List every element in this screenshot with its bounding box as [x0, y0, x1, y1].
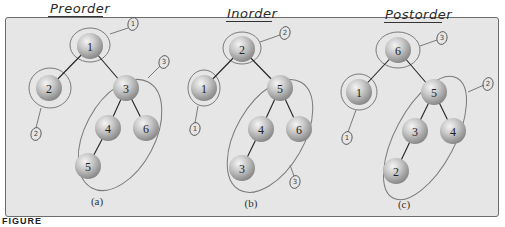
figure-label: FIGURE — [2, 216, 42, 226]
tree-node-c-4: 4 — [440, 118, 466, 144]
tree-node-a-2: 2 — [36, 75, 62, 101]
tree-node-b-5: 5 — [267, 75, 293, 101]
tree-node-a-5: 5 — [75, 153, 101, 179]
svg-text:3: 3 — [293, 178, 297, 186]
annotation-marker: 1 — [340, 130, 353, 145]
svg-text:3: 3 — [440, 34, 444, 42]
annotation-marker: 3 — [288, 174, 301, 189]
tree-node-b-2: 2 — [229, 36, 255, 62]
annotation-marker: 1 — [188, 121, 201, 136]
annotation-marker: 1 — [126, 16, 139, 31]
node-label: 3 — [123, 82, 129, 96]
tree-node-b-4: 4 — [248, 116, 274, 142]
node-label: 1 — [356, 86, 362, 100]
caption-b: (b) — [245, 197, 258, 210]
node-label: 2 — [46, 82, 52, 96]
node-label: 1 — [201, 82, 207, 96]
node-label: 3 — [239, 162, 245, 176]
tree-node-b-3: 3 — [229, 155, 255, 181]
annotation-marker: 2 — [481, 76, 494, 91]
node-label: 5 — [277, 82, 283, 96]
svg-text:1: 1 — [131, 20, 135, 28]
node-label: 2 — [239, 43, 245, 57]
caption-c: (c) — [398, 198, 411, 211]
tree-node-c-6: 6 — [385, 37, 411, 63]
node-label: 5 — [85, 160, 91, 174]
svg-text:1: 1 — [345, 134, 349, 142]
tree-node-b-1: 1 — [191, 75, 217, 101]
node-label: 5 — [431, 86, 437, 100]
tree-node-c-1: 1 — [346, 79, 372, 105]
node-label: 1 — [87, 40, 93, 54]
annotation-marker: 2 — [29, 126, 42, 141]
node-label: 4 — [105, 122, 111, 136]
svg-text:2: 2 — [283, 29, 287, 37]
tree-node-c-5: 5 — [421, 79, 447, 105]
node-label: 3 — [412, 125, 418, 139]
annotation-marker: 3 — [435, 30, 448, 45]
svg-text:3: 3 — [162, 58, 166, 66]
node-label: 6 — [296, 123, 302, 137]
annotation-marker: 2 — [278, 25, 291, 40]
node-label: 2 — [393, 165, 399, 179]
node-label: 4 — [450, 125, 456, 139]
tree-node-c-2: 2 — [383, 158, 409, 184]
tree-node-b-6: 6 — [286, 116, 312, 142]
node-label: 6 — [143, 122, 149, 136]
caption-a: (a) — [91, 195, 104, 208]
tree-diagrams: 123465215463615342 123213312 (a) (b) (c) — [0, 0, 505, 227]
tree-node-c-3: 3 — [402, 118, 428, 144]
tree-node-a-4: 4 — [95, 115, 121, 141]
node-label: 6 — [395, 44, 401, 58]
node-label: 4 — [258, 123, 264, 137]
tree-node-a-1: 1 — [77, 33, 103, 59]
annotation-marker: 3 — [157, 54, 170, 69]
svg-text:2: 2 — [34, 130, 38, 138]
svg-text:2: 2 — [486, 80, 490, 88]
svg-text:1: 1 — [193, 125, 197, 133]
tree-node-a-6: 6 — [133, 115, 159, 141]
tree-node-a-3: 3 — [113, 75, 139, 101]
